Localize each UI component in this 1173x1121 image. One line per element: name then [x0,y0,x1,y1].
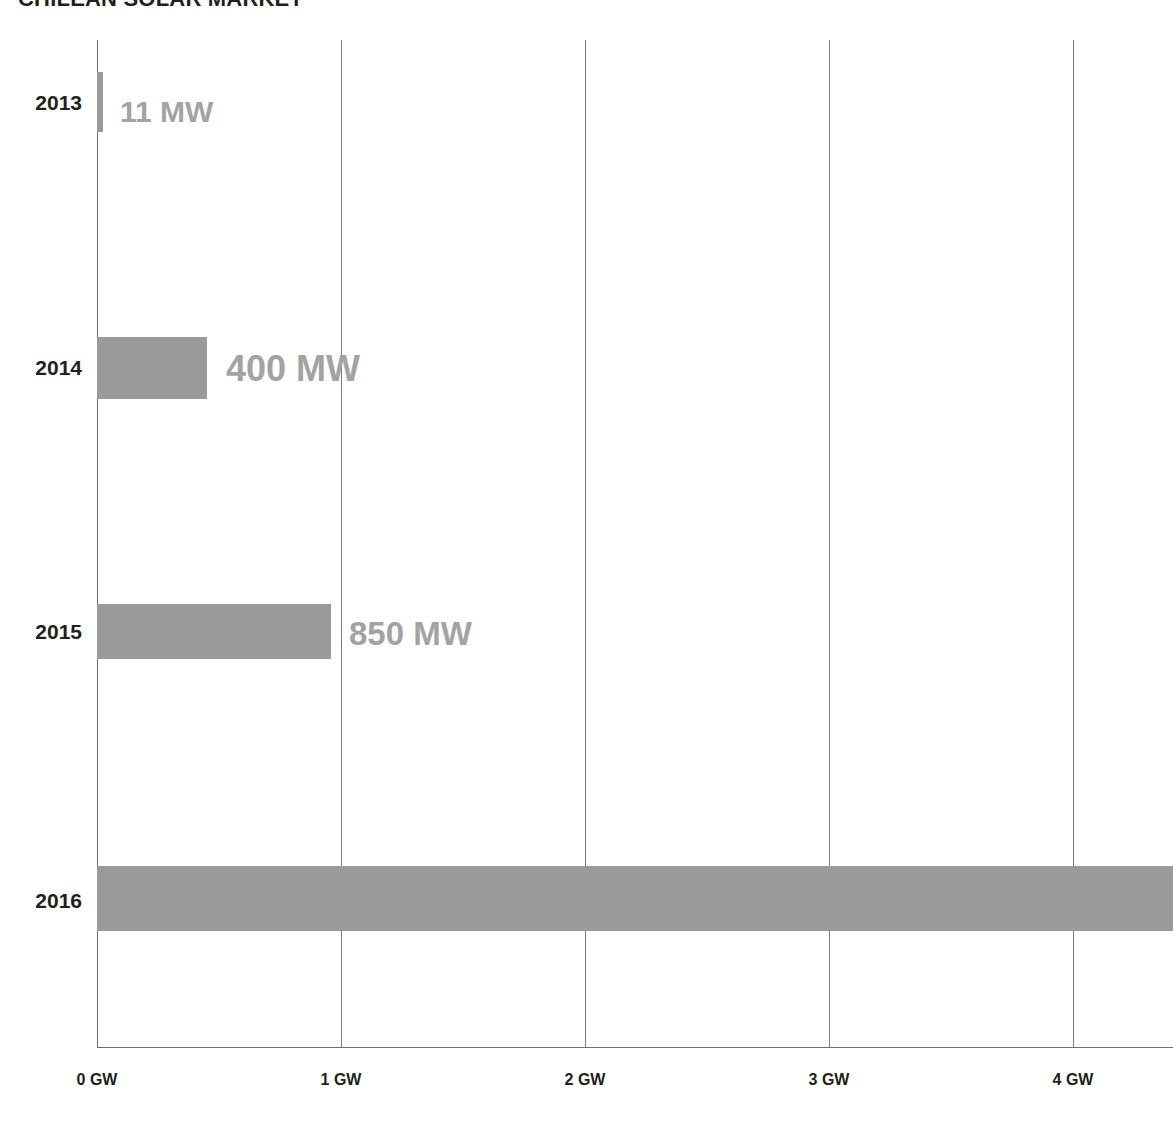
bar-value-label-2014: 400 MW [226,351,360,387]
x-tick-2gw: 2 GW [565,1072,606,1088]
x-tick-4gw: 4 GW [1053,1072,1094,1088]
bar-2015 [97,604,331,659]
bar-value-label-2013: 11 MW [120,97,213,127]
year-label-2013: 2013 [8,92,82,113]
bar-value-label-2015: 850 MW [349,617,472,650]
year-label-2014: 2014 [8,357,82,378]
chart-title: CHILEAN SOLAR MARKET [18,0,303,12]
bar-2014 [97,337,207,399]
year-label-2016: 2016 [8,890,82,911]
x-tick-3gw: 3 GW [809,1072,850,1088]
bar-chart: CHILEAN SOLAR MARKET 11 MW2013400 MW2014… [0,0,1173,1121]
bar-2016 [97,866,1173,931]
bar-2013 [97,72,103,132]
x-axis-baseline [97,1047,1173,1048]
x-tick-1gw: 1 GW [321,1072,362,1088]
year-label-2015: 2015 [8,621,82,642]
x-tick-0gw: 0 GW [77,1072,118,1088]
